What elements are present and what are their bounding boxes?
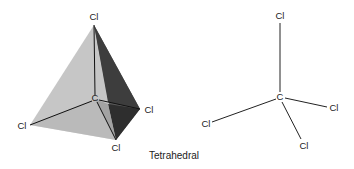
atom-label-cl-left: Cl (18, 121, 27, 131)
structural-formula (212, 23, 327, 139)
atom-label-cl-left-2d: Cl (202, 119, 211, 129)
bond-right-2d (285, 98, 327, 107)
bond-bottom-2d (282, 102, 301, 139)
atom-label-c-center: C (92, 93, 99, 103)
atom-label-c-center-2d: C (277, 92, 284, 102)
bond-left-2d (212, 99, 276, 122)
tetrahedron-solid (30, 25, 140, 140)
caption-tetrahedral: Tetrahedral (149, 150, 199, 161)
atom-label-cl-right: Cl (145, 105, 154, 115)
atom-label-cl-top-2d: Cl (276, 11, 285, 21)
atom-label-cl-right-2d: Cl (330, 103, 339, 113)
atom-label-cl-bottom-2d: Cl (300, 141, 309, 151)
atom-label-cl-bottom: Cl (112, 143, 121, 153)
atom-label-cl-top: Cl (90, 12, 99, 22)
